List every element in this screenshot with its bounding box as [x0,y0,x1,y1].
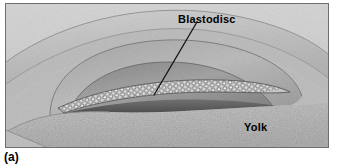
label-blastodisc: Blastodisc [178,14,236,25]
egg-cutaway-illustration [6,4,328,147]
label-yolk: Yolk [244,122,267,133]
figure-caption: (a) [4,150,19,164]
figure-container: Blastodisc Yolk (a) [0,0,339,166]
illustration-frame: Blastodisc Yolk [5,3,329,148]
